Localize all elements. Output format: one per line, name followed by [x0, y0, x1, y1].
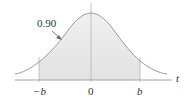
area-label: 0.90	[37, 17, 57, 29]
tick-label-zero: 0	[88, 85, 94, 97]
tick-label-neg-b: −b	[33, 85, 46, 97]
axis-label-t: t	[176, 72, 180, 84]
t-distribution-diagram: 0.90 t −b 0 b	[0, 0, 191, 100]
tick-label-b: b	[137, 85, 143, 97]
